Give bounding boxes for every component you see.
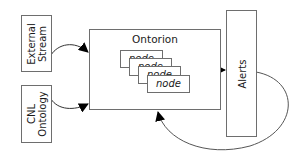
diagram-canvas: External Stream CNL Ontology Ontorion no… [0, 0, 307, 159]
cnl-ontology-box: CNL Ontology [21, 85, 52, 143]
edge-cnl-ontology-to-ontorion [51, 99, 88, 108]
external-stream-label: External Stream [26, 23, 48, 65]
external-stream-line-2: Stream [37, 23, 48, 65]
ontorion-title: Ontorion [90, 33, 220, 45]
external-stream-line-1: External [26, 23, 37, 65]
node-box-4: node [147, 75, 190, 93]
cnl-ontology-label: CNL Ontology [26, 91, 48, 136]
cnl-ontology-line-1: CNL [26, 91, 37, 136]
external-stream-box: External Stream [21, 15, 52, 72]
cnl-ontology-line-2: Ontology [37, 91, 48, 136]
alerts-box: Alerts [226, 10, 257, 137]
alerts-label: Alerts [236, 59, 247, 88]
edge-external-stream-to-ontorion [51, 45, 88, 55]
